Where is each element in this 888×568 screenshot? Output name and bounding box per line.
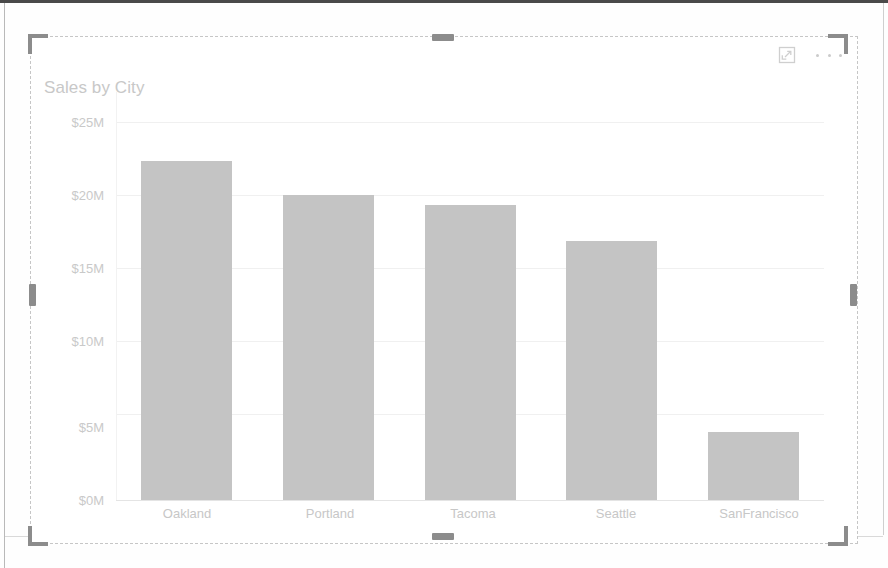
- x-tick-label-portland: Portland: [306, 506, 354, 521]
- x-tick-label-seattle: Seattle: [596, 506, 636, 521]
- resize-handle-top-right[interactable]: [828, 34, 848, 54]
- bar-series: [30, 36, 858, 544]
- x-axis: Oakland Portland Tacoma Seattle SanFranc…: [116, 506, 824, 536]
- resize-handle-top-center[interactable]: [432, 34, 454, 41]
- page-left-border: [4, 3, 5, 568]
- bar-chart-visual[interactable]: Sales by City: [30, 36, 858, 544]
- resize-handle-middle-left[interactable]: [29, 284, 36, 306]
- x-tick-label-oakland: Oakland: [163, 506, 211, 521]
- report-canvas: Sales by City: [0, 0, 888, 568]
- resize-handle-bottom-left[interactable]: [28, 526, 48, 546]
- x-tick-label-sanfrancisco: SanFrancisco: [719, 506, 798, 521]
- resize-handle-top-left[interactable]: [28, 34, 48, 54]
- bar-tacoma[interactable]: [425, 205, 516, 500]
- resize-handle-bottom-center[interactable]: [432, 533, 454, 540]
- bar-seattle[interactable]: [566, 241, 657, 500]
- bar-portland[interactable]: [283, 195, 374, 500]
- resize-handle-bottom-right[interactable]: [828, 526, 848, 546]
- page-top-border: [0, 0, 888, 3]
- resize-handle-middle-right[interactable]: [850, 284, 857, 306]
- page-right-border: [883, 3, 884, 535]
- bar-sanfrancisco[interactable]: [708, 432, 799, 500]
- x-tick-label-tacoma: Tacoma: [450, 506, 496, 521]
- chart-plot-area: $25M $20M $15M $10M $5M $0M Oakland Port…: [30, 36, 858, 544]
- bar-oakland[interactable]: [141, 161, 232, 500]
